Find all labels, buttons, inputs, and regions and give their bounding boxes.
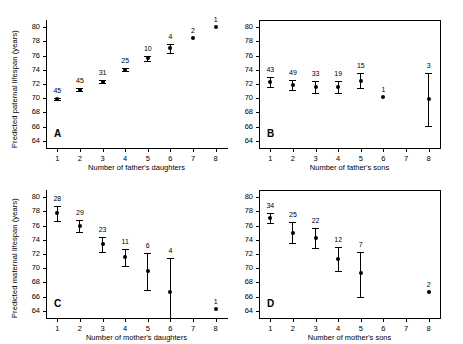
x-tick-label: 1 [260,324,280,333]
x-tick-label: 5 [351,324,371,333]
x-axis-title: Number of mother's sons [259,333,440,342]
x-tick-label: 7 [396,324,416,333]
error-bar-cap-bottom [289,243,296,244]
sample-size-label: 34 [266,202,274,209]
y-tick-label: 76 [233,221,253,230]
y-tick-mark [256,254,259,255]
sample-size-label: 12 [334,236,342,243]
x-tick-label: 4 [328,324,348,333]
x-tick-label: 8 [419,324,439,333]
y-tick-label: 70 [233,263,253,272]
sample-size-label: 2 [427,281,431,288]
error-bar-cap-top [335,247,342,248]
x-tick-mark [270,319,271,322]
sample-size-label: 7 [359,241,363,248]
figure-canvas: 64666870727476788012345678Number of fath… [0,0,463,344]
sample-size-label: 22 [312,217,320,224]
y-tick-label: 68 [233,277,253,286]
error-bar-cap-top [289,222,296,223]
y-tick-mark [256,282,259,283]
x-tick-label: 2 [283,324,303,333]
y-tick-mark [256,268,259,269]
x-tick-mark [383,319,384,322]
x-tick-label: 3 [306,324,326,333]
y-tick-label: 78 [233,206,253,215]
y-tick-label: 72 [233,249,253,258]
plot-frame [259,190,441,319]
error-bar-cap-top [357,252,364,253]
y-tick-label: 66 [233,292,253,301]
y-tick-mark [256,197,259,198]
error-bar-cap-bottom [357,297,364,298]
x-tick-label: 6 [373,324,393,333]
y-tick-mark [256,297,259,298]
y-tick-label: 74 [233,235,253,244]
x-tick-mark [429,319,430,322]
y-tick-mark [256,311,259,312]
error-bar-cap-top [267,213,274,214]
error-bar-cap-bottom [267,223,274,224]
y-tick-mark [256,226,259,227]
data-point [314,236,318,240]
y-tick-label: 64 [233,306,253,315]
error-bar-cap-top [312,228,319,229]
y-tick-mark [256,211,259,212]
data-point [291,231,295,235]
data-point [427,290,431,294]
error-bar-cap-bottom [312,248,319,249]
panel-letter-D: D [267,298,274,309]
sample-size-label: 25 [289,211,297,218]
y-tick-mark [256,240,259,241]
x-tick-mark [361,319,362,322]
y-tick-label: 80 [233,192,253,201]
x-tick-mark [293,319,294,322]
error-bar-cap-bottom [335,271,342,272]
panel-D: 64666870727476788012345678Number of moth… [0,0,463,344]
x-tick-mark [406,319,407,322]
x-tick-mark [316,319,317,322]
x-tick-mark [338,319,339,322]
data-point [359,271,363,275]
